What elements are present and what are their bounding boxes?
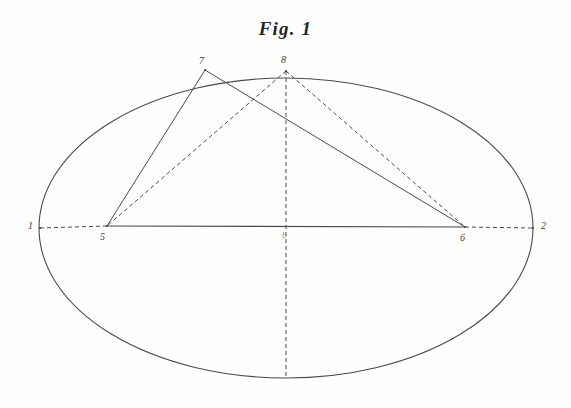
- point-label-5: 5: [100, 232, 105, 242]
- segment-7-5: [107, 70, 205, 226]
- point-node-6: [464, 226, 466, 228]
- point-node-5: [106, 225, 108, 227]
- point-label-c: b: [282, 231, 287, 240]
- figure-root: Fig. 1 125678b: [0, 0, 571, 408]
- point-node-1: [39, 227, 41, 229]
- point-label-2: 2: [541, 221, 546, 231]
- point-label-8: 8: [281, 55, 286, 65]
- segments-layer: [40, 70, 533, 378]
- points-layer: [39, 69, 534, 229]
- segment-6-2: [465, 227, 533, 228]
- segment-1-5: [40, 226, 107, 228]
- point-node-2: [532, 227, 534, 229]
- point-label-7: 7: [199, 56, 204, 66]
- segment-8-6: [286, 71, 465, 227]
- point-node-7: [204, 69, 206, 71]
- point-label-1: 1: [28, 221, 33, 231]
- point-label-6: 6: [460, 233, 465, 243]
- segment-7-6: [205, 70, 465, 227]
- segment-8-5: [107, 71, 286, 226]
- point-node-8: [285, 70, 287, 72]
